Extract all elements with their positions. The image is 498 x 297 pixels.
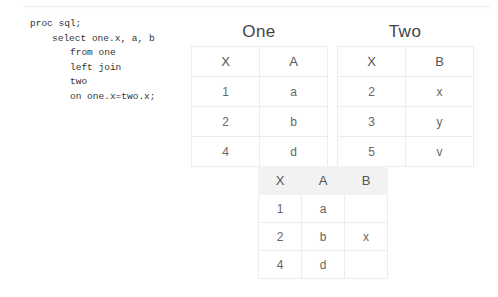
table-cell: 2: [259, 223, 302, 251]
column-header: B: [406, 47, 474, 77]
table-cell: 1: [192, 77, 260, 107]
table-cell: [345, 251, 388, 279]
table-cell: x: [406, 77, 474, 107]
table-row: 2 b: [192, 107, 328, 137]
result-table: X A B 1 a 2 b x 4 d: [258, 166, 388, 279]
table-cell: x: [345, 223, 388, 251]
code-line: proc sql;: [30, 17, 156, 32]
table-row: 1 a: [259, 195, 388, 223]
column-header: X: [338, 47, 406, 77]
table-cell: b: [260, 107, 328, 137]
table-cell: a: [260, 77, 328, 107]
column-header: B: [345, 167, 388, 195]
code-line: two: [30, 75, 156, 90]
table-cell: 4: [192, 137, 260, 167]
code-line: left join: [30, 61, 156, 76]
table-row: 4 d: [192, 137, 328, 167]
table-cell: 2: [192, 107, 260, 137]
table-cell: [345, 195, 388, 223]
table-row: 4 d: [259, 251, 388, 279]
table-cell: d: [302, 251, 345, 279]
table-cell: v: [406, 137, 474, 167]
table-cell: y: [406, 107, 474, 137]
table-row: 5 v: [338, 137, 474, 167]
table-cell: a: [302, 195, 345, 223]
table-two-title: Two: [337, 22, 473, 42]
table-row: 3 y: [338, 107, 474, 137]
table-header-row: X A: [192, 47, 328, 77]
table-cell: 2: [338, 77, 406, 107]
code-line: select one.x, a, b: [30, 32, 156, 47]
table-cell: 1: [259, 195, 302, 223]
table-one-title: One: [191, 22, 327, 42]
column-header: X: [259, 167, 302, 195]
table-cell: d: [260, 137, 328, 167]
table-header-row: X A B: [259, 167, 388, 195]
code-line: on one.x=two.x;: [30, 90, 156, 105]
code-line: from one: [30, 46, 156, 61]
column-header: A: [260, 47, 328, 77]
top-divider: [24, 6, 490, 7]
table-cell: b: [302, 223, 345, 251]
table-two: X B 2 x 3 y 5 v: [337, 46, 474, 167]
table-header-row: X B: [338, 47, 474, 77]
table-cell: 3: [338, 107, 406, 137]
sql-code-block: proc sql;select one.x, a, bfrom oneleft …: [30, 17, 156, 104]
table-row: 2 x: [338, 77, 474, 107]
table-row: 2 b x: [259, 223, 388, 251]
table-one: X A 1 a 2 b 4 d: [191, 46, 328, 167]
table-cell: 5: [338, 137, 406, 167]
column-header: X: [192, 47, 260, 77]
column-header: A: [302, 167, 345, 195]
table-cell: 4: [259, 251, 302, 279]
table-row: 1 a: [192, 77, 328, 107]
